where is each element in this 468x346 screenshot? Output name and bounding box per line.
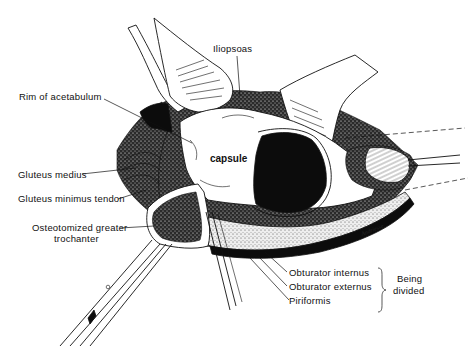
label-divided: divided — [393, 285, 425, 296]
label-piriformis: Piriformis — [289, 295, 331, 306]
label-being: Being — [397, 273, 422, 284]
being-divided-brace — [378, 268, 386, 312]
label-gluteus-medius: Gluteus medius — [18, 169, 87, 180]
forceps-lower-left — [60, 240, 172, 346]
label-rim-of-acetabulum: Rim of acetabulum — [19, 91, 102, 102]
label-obturator-internus: Obturator internus — [289, 267, 369, 278]
label-gluteus-minimus-tendon: Gluteus minimus tendon — [18, 193, 125, 204]
leader-iliopsoas — [237, 56, 240, 96]
label-iliopsoas: Iliopsoas — [213, 43, 252, 54]
label-obturator-externus: Obturator externus — [289, 281, 372, 292]
label-capsule: capsule — [210, 153, 248, 164]
acetabulum-dark-socket — [254, 133, 327, 213]
label-osteotomized-line2: trochanter — [54, 233, 99, 244]
hip-anatomy-drawing: Iliopsoas Rim of acetabulum capsule Glut… — [0, 0, 468, 346]
leader-piriformis — [250, 258, 289, 300]
label-osteotomized-line1: Osteotomized greater — [32, 222, 127, 233]
illustration-canvas: Iliopsoas Rim of acetabulum capsule Glut… — [0, 0, 468, 346]
